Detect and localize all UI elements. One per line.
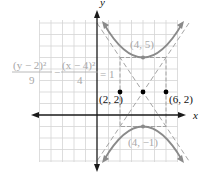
point-center-4-2 bbox=[141, 90, 146, 95]
x-axis-left-arrow bbox=[31, 112, 39, 118]
equation: (y − 2)² 9 − (x − 4)² 4 = 1 bbox=[12, 59, 114, 86]
eq-term2-denominator: 4 bbox=[77, 74, 83, 86]
vertex-bottom bbox=[141, 125, 145, 129]
eq-term1-numerator: (y − 2)² bbox=[13, 59, 47, 72]
y-axis-label: y bbox=[99, 0, 105, 8]
y-axis-top-arrow bbox=[94, 10, 100, 18]
label-6-2: (6, 2) bbox=[169, 93, 193, 106]
vertex-top bbox=[141, 56, 145, 60]
label-2-2: (2, 2) bbox=[99, 93, 123, 106]
x-axis-right-arrow bbox=[178, 112, 186, 118]
eq-minus: − bbox=[54, 66, 60, 78]
x-axis-label: x bbox=[192, 109, 198, 121]
point-6-2 bbox=[164, 90, 169, 95]
hyperbola-figure: x y (2, 2) (6, 2) (4, 5) (4, −1) (y − 2)… bbox=[0, 0, 208, 185]
eq-rhs: = 1 bbox=[100, 68, 114, 80]
y-axis-bottom-arrow bbox=[94, 164, 100, 172]
label-vertex-bottom: (4, −1) bbox=[128, 136, 158, 149]
eq-term2-numerator: (x − 4)² bbox=[62, 59, 96, 72]
eq-term1-denominator: 9 bbox=[29, 74, 35, 86]
label-vertex-top: (4, 5) bbox=[130, 38, 154, 51]
